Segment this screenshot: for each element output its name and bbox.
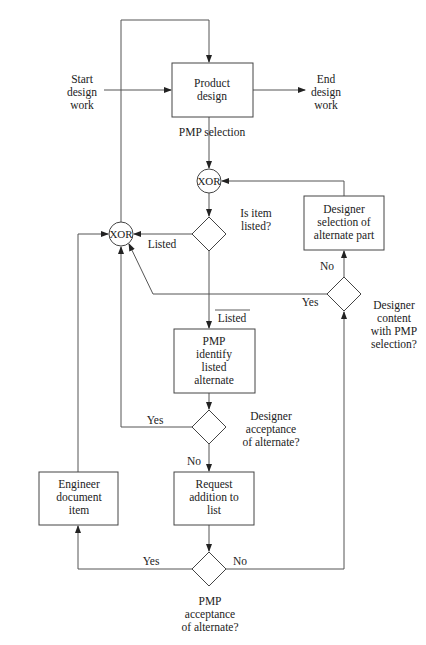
svg-text:acceptance: acceptance xyxy=(246,423,296,436)
svg-text:acceptance: acceptance xyxy=(185,608,235,621)
decision-designer-acceptance: Designer acceptance of alternate? xyxy=(192,410,300,448)
decision-pmp-acceptance: PMP acceptance of alternate? xyxy=(181,552,238,633)
svg-text:item: item xyxy=(69,504,89,516)
svg-text:alternate part: alternate part xyxy=(314,229,375,242)
svg-text:identify: identify xyxy=(196,348,232,361)
svg-text:Engineer: Engineer xyxy=(58,478,100,491)
svg-text:Designer: Designer xyxy=(323,203,365,216)
svg-text:document: document xyxy=(56,491,102,503)
svg-text:of alternate?: of alternate? xyxy=(242,436,299,448)
pmp-selection-label: PMP selection xyxy=(179,126,246,138)
edge-label-not-listed: Listed xyxy=(215,310,250,324)
svg-text:XOR: XOR xyxy=(109,228,133,240)
decision-is-item-listed: Is item listed? xyxy=(192,207,272,251)
svg-text:design: design xyxy=(67,86,97,99)
edge-label-pmp-no: No xyxy=(233,555,247,567)
edge-label-content-yes: Yes xyxy=(302,296,319,308)
svg-text:Product: Product xyxy=(194,77,231,89)
svg-text:selection of: selection of xyxy=(317,216,370,228)
svg-text:design: design xyxy=(197,90,227,103)
flowchart: Start design work End design work Produc… xyxy=(0,0,426,645)
svg-text:work: work xyxy=(70,99,94,111)
edge-label-acceptance-no: No xyxy=(187,455,201,467)
svg-text:list: list xyxy=(207,504,222,516)
svg-text:addition to: addition to xyxy=(189,491,239,503)
svg-text:with PMP: with PMP xyxy=(371,325,417,337)
svg-text:PMP: PMP xyxy=(198,595,221,607)
xor-gate-left: XOR xyxy=(109,222,133,246)
decision-designer-content: Designer content with PMP selection? xyxy=(327,277,417,350)
svg-text:Designer: Designer xyxy=(373,299,415,312)
svg-text:Start: Start xyxy=(71,73,94,85)
svg-text:Is item: Is item xyxy=(240,207,272,219)
end-label: End design work xyxy=(311,73,341,111)
engineer-document-box: Engineer document item xyxy=(39,472,118,525)
svg-text:listed: listed xyxy=(202,361,227,373)
request-addition-box: Request addition to list xyxy=(174,472,254,525)
product-design-box: Product design xyxy=(172,63,253,117)
start-label: Start design work xyxy=(67,73,97,111)
svg-text:design: design xyxy=(311,86,341,99)
edge-label-acceptance-yes: Yes xyxy=(147,414,164,426)
svg-text:End: End xyxy=(317,73,336,85)
edge-label-listed: Listed xyxy=(148,238,177,250)
svg-text:Request: Request xyxy=(195,478,233,491)
svg-text:XOR: XOR xyxy=(197,175,221,187)
svg-text:selection?: selection? xyxy=(371,338,417,350)
svg-text:listed?: listed? xyxy=(241,220,271,232)
svg-text:content: content xyxy=(377,312,412,324)
svg-text:of alternate?: of alternate? xyxy=(181,621,238,633)
svg-text:alternate: alternate xyxy=(194,374,234,386)
designer-selection-box: Designer selection of alternate part xyxy=(304,196,384,250)
svg-text:work: work xyxy=(314,99,338,111)
edge-label-content-no: No xyxy=(320,260,334,272)
svg-text:Listed: Listed xyxy=(218,312,247,324)
xor-gate-top: XOR xyxy=(197,169,221,193)
svg-text:PMP: PMP xyxy=(202,335,225,347)
svg-text:Designer: Designer xyxy=(250,410,292,423)
edge-label-pmp-yes: Yes xyxy=(143,555,160,567)
pmp-identify-box: PMP identify listed alternate xyxy=(174,329,255,393)
